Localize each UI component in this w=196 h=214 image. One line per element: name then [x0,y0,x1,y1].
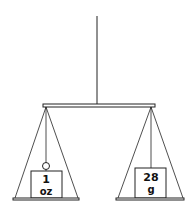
left-weight-value: 1 [42,173,50,186]
right-weight-unit: g [147,184,154,195]
left-pan: 1 oz [13,107,79,200]
weight-hook-icon [43,163,50,170]
right-weight-value: 28 [143,171,158,184]
right-pan-plate [116,198,184,200]
left-weight-unit: oz [40,186,53,197]
balance-scale: 1 oz 28 g [0,0,196,214]
left-pan-plate [13,198,79,200]
beam [43,104,155,107]
right-pan: 28 g [116,107,184,200]
